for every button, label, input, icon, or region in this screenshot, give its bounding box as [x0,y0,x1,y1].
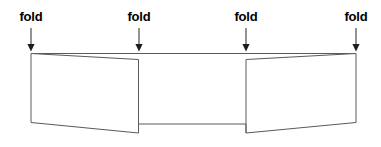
fold-arrow-head-1 [27,44,34,52]
fold-label-3: fold [234,10,257,24]
fold-arrow-group-4 [352,28,359,52]
fold-diagram: fold fold fold fold [0,0,381,147]
fold-arrow-group-2 [135,28,142,52]
fold-label-4: fold [344,10,367,24]
right-panel [246,54,356,134]
diagram-canvas [0,0,381,147]
fold-arrow-group-3 [242,28,249,52]
fold-arrow-head-2 [135,44,142,52]
fold-label-1: fold [19,10,42,24]
fold-label-2: fold [127,10,150,24]
fold-arrow-head-4 [352,44,359,52]
fold-arrow-group-1 [27,28,34,52]
left-panel [31,54,139,134]
fold-arrow-head-3 [242,44,249,52]
